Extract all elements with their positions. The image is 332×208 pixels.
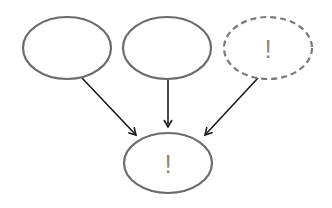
- edge-n1-n4: [82, 78, 136, 135]
- edge-n3-n4: [205, 78, 258, 135]
- node-n2: [123, 17, 211, 79]
- diagram-canvas: ! !: [0, 0, 332, 208]
- exclamation-icon: !: [264, 34, 271, 64]
- node-n3: !: [224, 17, 312, 79]
- node-n4: !: [124, 133, 212, 193]
- node-n1: [23, 17, 111, 79]
- exclamation-icon: !: [164, 149, 171, 179]
